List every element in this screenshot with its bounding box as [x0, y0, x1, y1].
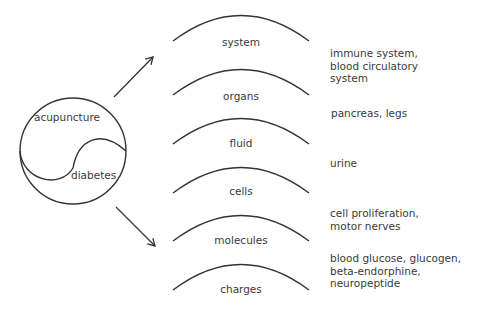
diabetes-label: diabetes — [71, 169, 116, 181]
level-label-organs: organs — [173, 90, 309, 102]
arrow-down — [116, 207, 155, 246]
examples-fluid: urine — [330, 157, 357, 170]
examples-molecules: blood glucose, glucogen, beta-endorphine… — [330, 252, 461, 290]
level-label-molecules: molecules — [173, 234, 309, 246]
examples-cells: cell proliferation, motor nerves — [330, 207, 419, 232]
level-label-system: system — [173, 36, 309, 48]
examples-system: immune system, blood circulatory system — [330, 47, 418, 85]
level-label-cells: cells — [173, 185, 309, 197]
examples-organs: pancreas, legs — [331, 107, 407, 120]
level-label-fluid: fluid — [173, 137, 309, 149]
arrow-up — [114, 57, 153, 97]
acupuncture-label: acupuncture — [34, 111, 100, 123]
level-label-charges: charges — [173, 283, 309, 295]
